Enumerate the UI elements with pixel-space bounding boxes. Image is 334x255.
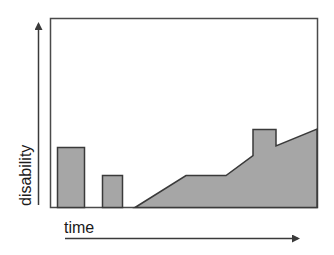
- y-axis-label: disability: [17, 145, 34, 206]
- disability-diagram: disability time: [0, 0, 334, 255]
- x-axis-label: time: [64, 219, 94, 236]
- relapse-bar-1: [58, 148, 85, 208]
- relapse-bar-2: [103, 176, 123, 208]
- progressive-disability-area: [135, 129, 317, 208]
